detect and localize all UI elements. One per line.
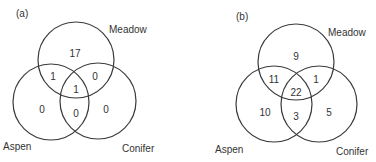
- venn-panel-b: (b) Meadow Aspen Conifer 9 11 1 22 10 3 …: [215, 11, 369, 157]
- conifer-circle-b: [281, 66, 357, 142]
- meadow-label-a: Meadow: [109, 24, 148, 35]
- conifer-label-b: Conifer: [336, 146, 369, 157]
- count-aspen-only-a: 0: [39, 104, 45, 115]
- conifer-circle-a: [60, 63, 136, 139]
- count-aspen-conifer-b: 3: [293, 111, 299, 122]
- count-aspen-conifer-a: 0: [73, 108, 79, 119]
- count-meadow-only-b: 9: [293, 51, 299, 62]
- count-meadow-aspen-b: 11: [269, 74, 280, 85]
- meadow-label-b: Meadow: [328, 27, 367, 38]
- panel-label-a: (a): [16, 8, 28, 19]
- venn-panel-a: (a) Meadow Aspen Conifer 17 1 0 1 0 0 0: [3, 8, 155, 154]
- count-meadow-conifer-a: 0: [92, 71, 98, 82]
- panel-label-b: (b): [236, 11, 248, 22]
- count-all-three-b: 22: [290, 87, 302, 98]
- count-meadow-aspen-a: 1: [50, 71, 56, 82]
- conifer-label-a: Conifer: [122, 143, 155, 154]
- venn-figure: (a) Meadow Aspen Conifer 17 1 0 1 0 0 0 …: [0, 0, 376, 162]
- count-meadow-conifer-b: 1: [313, 74, 319, 85]
- count-conifer-only-b: 5: [326, 107, 332, 118]
- aspen-label-b: Aspen: [215, 144, 243, 155]
- count-conifer-only-a: 0: [103, 104, 109, 115]
- count-aspen-only-b: 10: [259, 107, 271, 118]
- count-meadow-only-a: 17: [69, 48, 81, 59]
- count-all-three-a: 1: [73, 84, 79, 95]
- aspen-label-a: Aspen: [3, 141, 31, 152]
